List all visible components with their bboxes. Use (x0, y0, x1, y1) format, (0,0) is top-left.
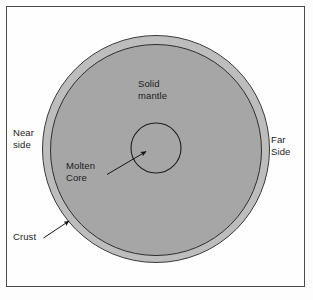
molten-core-circle (131, 123, 181, 173)
figure-container: Near side Far Side Solid mantle Molten C… (0, 0, 313, 300)
moon-cross-section-diagram (0, 0, 313, 300)
label-molten-core: Molten Core (66, 160, 95, 183)
label-near-side: Near side (13, 127, 34, 150)
label-solid-mantle: Solid mantle (138, 78, 167, 101)
crust-leader-line (44, 221, 70, 238)
label-crust: Crust (13, 231, 36, 243)
label-far-side: Far Side (271, 134, 290, 157)
